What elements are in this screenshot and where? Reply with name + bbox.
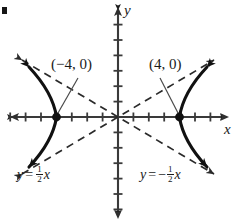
graph-canvas bbox=[0, 0, 238, 224]
right-asymptote-fraction: 12 bbox=[167, 165, 174, 185]
axis-arrowheads bbox=[10, 7, 229, 219]
left-asymptote-equals: = bbox=[23, 167, 35, 182]
right-vertex-label: (4, 0) bbox=[149, 57, 182, 72]
x-axis-label: x bbox=[224, 122, 231, 137]
left-asymptote-fraction: 12 bbox=[36, 165, 43, 185]
left-asymptote-denominator: 2 bbox=[36, 175, 43, 184]
left-asymptote-variable: x bbox=[44, 167, 50, 182]
hyperbola-figure: x y (−4, 0) (4, 0) y=12x y=−12x bbox=[0, 0, 238, 224]
left-vertex-dot bbox=[52, 113, 61, 122]
right-asymptote-equation: y=−12x bbox=[140, 166, 181, 186]
right-asymptote-variable: x bbox=[175, 167, 181, 182]
right-asymptote-sign: − bbox=[158, 167, 166, 182]
y-axis-label: y bbox=[124, 3, 131, 18]
right-asymptote-equals: = bbox=[146, 167, 158, 182]
right-vertex-dot bbox=[175, 113, 184, 122]
left-vertex-label: (−4, 0) bbox=[51, 57, 92, 72]
right-vertex-leader bbox=[160, 78, 178, 113]
left-asymptote-equation: y=12x bbox=[17, 166, 50, 186]
right-asymptote-denominator: 2 bbox=[167, 175, 174, 184]
